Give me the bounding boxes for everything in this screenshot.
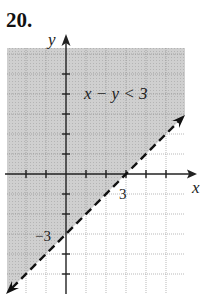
x-intercept-label: 3	[119, 186, 127, 202]
x-axis-label: x	[191, 178, 200, 197]
inequality-label: x − y < 3	[83, 84, 148, 103]
y-axis-label: y	[46, 30, 56, 49]
y-intercept-label: −3	[35, 228, 51, 244]
inequality-graph: y x x − y < 3 3 −3	[0, 0, 202, 294]
